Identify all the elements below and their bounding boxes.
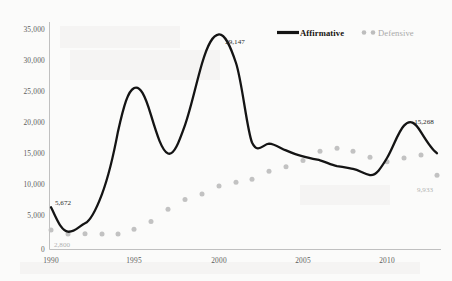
data-point (149, 219, 154, 224)
data-point (301, 158, 306, 163)
data-point (132, 227, 137, 232)
y-axis-tick-labels: 35,000 30,000 25,000 20,000 15,000 10,00… (23, 25, 45, 254)
x-tick-label: 2005 (295, 256, 311, 265)
legend-label-affirmative: Affirmative (300, 28, 344, 38)
chart-canvas: 35,000 30,000 25,000 20,000 15,000 10,00… (0, 0, 452, 281)
y-tick-label: 35,000 (23, 25, 45, 34)
x-tick-label: 2000 (211, 256, 227, 265)
data-point (234, 180, 239, 185)
data-point (217, 184, 222, 189)
y-tick-label: 15,000 (23, 149, 45, 158)
data-point (116, 232, 121, 237)
data-point (83, 231, 88, 236)
data-label-defensive-end: 9,933 (417, 186, 433, 194)
y-tick-label: 0 (41, 245, 45, 254)
data-point (267, 169, 272, 174)
series-defensive (49, 146, 440, 237)
data-point (335, 146, 340, 151)
line-chart: 35,000 30,000 25,000 20,000 15,000 10,00… (0, 0, 452, 281)
data-point (284, 164, 289, 169)
data-point (368, 155, 373, 160)
data-point (318, 149, 323, 154)
data-point (100, 232, 105, 237)
chart-legend: Affirmative Defensive (277, 28, 414, 38)
data-point (183, 197, 188, 202)
data-label-affirmative-end: 15,268 (414, 118, 434, 126)
y-tick-label: 25,000 (23, 87, 45, 96)
legend-swatch-defensive-dot (362, 30, 367, 35)
data-point (419, 153, 424, 158)
y-tick-label: 20,000 (23, 118, 45, 127)
legend-label-defensive: Defensive (378, 28, 414, 38)
x-tick-label: 1990 (43, 256, 59, 265)
y-tick-label: 30,000 (23, 56, 45, 65)
data-point (200, 192, 205, 197)
x-tick-label: 2010 (379, 256, 395, 265)
x-axis-tick-labels: 1990 1995 2000 2005 2010 (43, 256, 395, 265)
series-affirmative (51, 34, 437, 231)
data-point (435, 173, 440, 178)
legend-swatch-defensive-dot (371, 30, 376, 35)
x-tick-label: 1995 (126, 256, 142, 265)
y-tick-label: 5,000 (27, 211, 45, 220)
y-tick-label: 10,000 (23, 180, 45, 189)
data-point (351, 149, 356, 154)
data-label-defensive-start: 2,800 (54, 241, 70, 249)
data-point (166, 207, 171, 212)
data-point (402, 156, 407, 161)
data-label-affirmative-peak: 29,147 (225, 38, 245, 46)
data-point (250, 177, 255, 182)
data-label-affirmative-start: 5,672 (55, 199, 71, 207)
data-point (49, 227, 54, 232)
